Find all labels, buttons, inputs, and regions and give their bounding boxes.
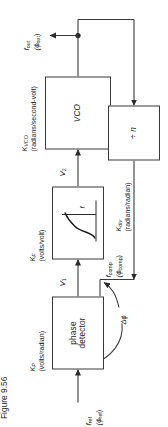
figure-canvas: phase detector f VCO ÷ n KP (volts/radia… — [0, 0, 168, 427]
pll-block-diagram: phase detector f VCO ÷ n KP (volts/radia… — [0, 0, 168, 427]
delta-phi-arrow-right — [104, 282, 119, 307]
v2-sub: 2 — [61, 168, 67, 171]
filter-axis-label: f — [79, 206, 87, 208]
f-ref-sub: ref — [87, 417, 93, 423]
label-kp: KP (volts/radian) — [28, 331, 46, 371]
phi-comp-open: (ϕ — [114, 270, 123, 277]
phi-comp-sub: comp — [117, 257, 123, 270]
phi-out-close: ) — [32, 33, 41, 35]
phase-detector-line1: phase — [69, 317, 78, 348]
kdiv-subscript: div — [117, 219, 123, 226]
kvco-units: (radians/second-volt) — [30, 86, 39, 151]
vco-label: VCO — [73, 103, 82, 121]
phi-comp-close: ) — [114, 255, 123, 257]
block-vco[interactable]: VCO — [45, 76, 111, 149]
kdiv-symbol: K — [114, 226, 123, 231]
kf-symbol: K — [28, 256, 37, 261]
label-v2: V2 — [58, 168, 68, 176]
kvco-subscript: VCO — [23, 135, 29, 146]
kp-symbol: K — [28, 366, 37, 371]
block-phase-detector[interactable]: phase detector — [52, 296, 104, 369]
kp-subscript: P — [31, 363, 37, 367]
phi-ref-sub: ref — [97, 412, 103, 418]
label-kvco: KVCO (radians/second-volt) — [20, 86, 38, 151]
label-kf: KF (volts/volt) — [28, 229, 46, 261]
label-kdiv: Kdiv (radians/radian) — [114, 182, 132, 231]
phi-out-sub: out — [35, 36, 41, 43]
phi-ref-close: ) — [94, 409, 103, 411]
f-comp-sub: comp — [107, 262, 113, 275]
label-delta-phi: Δϕ — [119, 315, 128, 324]
phase-detector-line2: detector — [78, 317, 87, 348]
label-f-comp: fcomp (ϕcomp) — [104, 255, 124, 277]
label-v1: V1 — [58, 278, 68, 286]
figure-caption: Figure 9.56 — [0, 377, 9, 419]
block-loop-filter[interactable]: f — [52, 186, 104, 259]
kf-units: (volts/volt) — [38, 229, 47, 261]
filter-response-plot — [53, 185, 105, 258]
v1-sub: 1 — [61, 278, 67, 281]
divider-label: ÷ n — [129, 127, 138, 139]
label-f-ref: fref (ϕref) — [84, 409, 104, 425]
phi-ref-open: (ϕ — [94, 418, 103, 425]
output-tap-node — [75, 32, 80, 37]
label-f-out: fout (ϕout) — [22, 33, 42, 50]
block-divider[interactable]: ÷ n — [108, 105, 160, 160]
kdiv-units: (radians/radian) — [124, 182, 133, 231]
phi-out-open: (ϕ — [32, 43, 41, 50]
kf-subscript: F — [31, 253, 37, 256]
kvco-symbol: K — [20, 146, 29, 151]
f-out-sub: out — [25, 40, 31, 47]
kp-units: (volts/radian) — [38, 331, 47, 371]
